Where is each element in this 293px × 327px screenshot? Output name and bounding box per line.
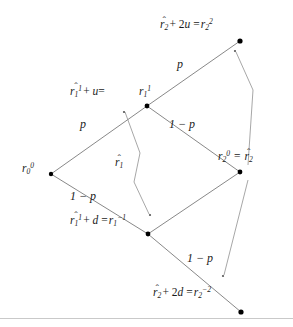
node-root[interactable]: [49, 172, 53, 176]
annotation-lower-middle: ̂r11+ d =r1−1: [70, 214, 126, 228]
edge-down1-down2: [148, 234, 241, 312]
annotation-bottom-operator: + 2d =: [161, 286, 194, 298]
edge-up1-up2: [147, 41, 240, 106]
annotation-right: r20 = ̂r2: [218, 150, 253, 164]
annotation-right-hat-term: ̂r2: [245, 151, 253, 164]
annotation-upper-middle-hat-term: ̂r11: [70, 85, 82, 99]
lattice-nodes: [49, 38, 244, 314]
annotation-bottom-result: r2−2: [194, 286, 211, 298]
edge-down1-mid2: [148, 172, 240, 234]
annotation-upper-middle-operator: + u=: [82, 85, 106, 97]
annotation-right-operator: =: [230, 150, 245, 162]
annotation-top-operator: + 2u =: [168, 18, 201, 30]
annotation-right-left-term: r20: [218, 150, 230, 162]
leader-line-top: [236, 52, 253, 90]
bottom-divider-rule: [0, 318, 293, 319]
node-label-root: r00: [22, 162, 34, 176]
node-down1[interactable]: [146, 232, 151, 237]
leader-line-right-node: [224, 180, 248, 275]
annotation-top: ̂r2+ 2u =r22: [160, 18, 213, 32]
edge-label-one-minus-p-lower-right: 1 − p: [187, 252, 213, 264]
annotation-bottom: ̂r2+ 2d =r2−2: [153, 286, 211, 300]
annotation-center: ̂r1: [115, 157, 123, 170]
annotation-upper-middle: ̂r11+ u=: [70, 85, 106, 99]
figure-root: r00 r11 p p 1 − p 1 − p 1 − p ̂r2+ 2u =r…: [0, 0, 293, 327]
leader-dot-lower-middle: [149, 214, 151, 216]
leader-line-upper-middle: [125, 112, 140, 153]
leader-dot-lower-right: [222, 275, 224, 277]
leader-dot-top: [234, 50, 236, 52]
edge-label-p-lower-left: p: [80, 118, 86, 130]
annotation-center-hat-term: ̂r1: [115, 157, 123, 170]
leader-line-center-down: [134, 182, 149, 214]
leader-dot-upper-middle: [123, 111, 125, 113]
edge-label-one-minus-p-middle: 1 − p: [169, 118, 195, 130]
annotation-top-hat-term: ̂r2: [160, 19, 168, 32]
node-label-up1: r11: [139, 85, 151, 99]
node-up2[interactable]: [237, 38, 242, 43]
annotation-lower-middle-result: r1−1: [109, 214, 126, 226]
node-label-root-text: r00: [22, 162, 34, 174]
annotation-lower-middle-hat-term: ̂r11: [70, 214, 82, 228]
node-label-up1-text: r11: [139, 85, 151, 97]
edge-label-one-minus-p-left: 1 − p: [70, 190, 96, 202]
node-mid2[interactable]: [238, 170, 243, 175]
edge-label-p-upper-right: p: [177, 58, 183, 70]
lattice-edges: [51, 41, 241, 312]
edge-root-up1: [51, 106, 147, 174]
leader-line-center-hat: [134, 153, 140, 182]
annotation-top-result: r22: [201, 18, 213, 30]
annotation-lower-middle-operator: + d =: [82, 214, 109, 226]
node-down2[interactable]: [238, 309, 243, 314]
node-up1[interactable]: [145, 104, 150, 109]
annotation-bottom-hat-term: ̂r2: [153, 287, 161, 300]
